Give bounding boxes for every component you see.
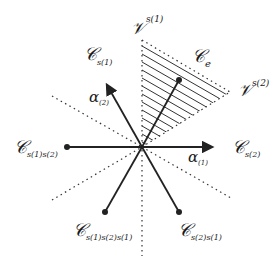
label-c-s1: 𝒞 s(1) [84,43,112,67]
label-c-e: 𝒞 e [192,45,211,69]
svg-text:α: α [188,148,198,166]
chamber-diagram: 𝒱 s(1) 𝒞 e 𝒱 s(2) 𝒞 s(1) α (2) 𝒞 s(1)s(2… [0,0,274,259]
label-alpha2: α (2) [89,88,109,107]
label-c-s1s2: 𝒞 s(1)s(2) [14,136,58,159]
label-v-s1: 𝒱 s(1) [131,14,164,38]
svg-text:s(1): s(1) [146,14,164,24]
svg-text:s(2)s(1): s(2)s(1) [191,233,222,242]
wall-lower-right [142,147,231,198]
ray-lower-left [105,147,142,212]
label-c-s1s2s1: 𝒞 s(1)s(2)s(1) [73,219,132,242]
svg-text:s(2): s(2) [245,150,260,159]
label-c-s2: 𝒞 s(2) [232,136,260,159]
svg-text:(2): (2) [99,99,109,107]
label-v-s2: 𝒱 s(2) [238,78,270,100]
wall-lower-left [52,147,142,200]
label-alpha1: α (1) [188,148,208,167]
wall-v-s2 [142,40,230,92]
ray-dots [64,77,182,215]
svg-text:s(2): s(2) [252,78,270,88]
svg-text:s(1)s(2)s(1): s(1)s(2)s(1) [86,233,132,242]
ray-lower-right [142,147,179,212]
label-c-s2s1: 𝒞 s(2)s(1) [178,219,222,242]
svg-text:s(1): s(1) [97,58,112,67]
svg-text:e: e [205,58,211,69]
svg-text:α: α [89,88,99,106]
svg-text:s(1)s(2): s(1)s(2) [27,150,58,159]
svg-text:(1): (1) [198,159,208,167]
alpha2-arrow [107,85,142,147]
